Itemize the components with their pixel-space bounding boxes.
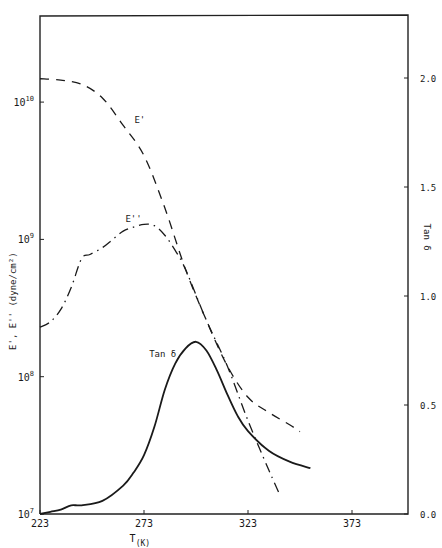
right-tick-label: 1.5 xyxy=(420,183,436,193)
e-double-prime-label: E'' xyxy=(125,214,141,224)
background xyxy=(0,0,442,548)
right-tick-label: 0.0 xyxy=(420,510,436,520)
right-tick-label: 2.0 xyxy=(420,74,436,84)
tan-delta-label: Tan δ xyxy=(149,349,176,359)
x-tick-label: 373 xyxy=(343,518,361,529)
x-tick-label: 323 xyxy=(239,518,257,529)
e-prime-label: E' xyxy=(134,115,145,125)
right-tick-label: 1.0 xyxy=(420,292,436,302)
right-tick-label: 0.5 xyxy=(420,401,436,411)
dynamic-mechanical-chart: 223273323373T(K) 1071081091010E', E'' (d… xyxy=(0,0,442,548)
x-tick-label: 273 xyxy=(135,518,153,529)
right-axis-label: Tan δ xyxy=(422,224,432,251)
x-tick-label: 223 xyxy=(31,518,49,529)
left-axis-label: E', E'' (dyne/cm²) xyxy=(8,252,18,350)
